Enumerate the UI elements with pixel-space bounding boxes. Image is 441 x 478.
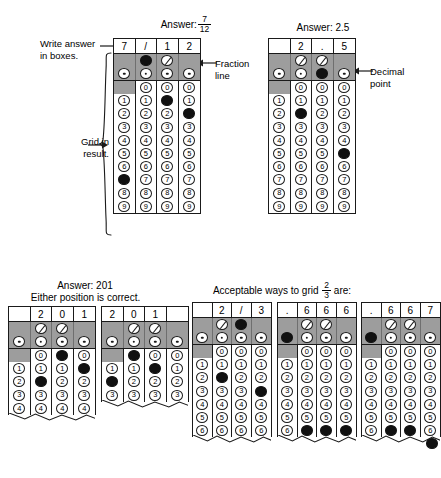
answer-cell[interactable]	[9, 307, 31, 322]
slash-cell[interactable]	[193, 318, 213, 331]
digit-bubble[interactable]: 3	[140, 122, 152, 133]
decimal-bubble[interactable]	[338, 68, 350, 79]
digit-cell[interactable]: 1	[401, 358, 421, 371]
digit-cell[interactable]: 0	[401, 345, 421, 358]
digit-cell[interactable]: 7	[157, 173, 179, 186]
decimal-bubble[interactable]	[235, 332, 247, 343]
decimal-bubble[interactable]	[301, 332, 313, 343]
digit-cell[interactable]: 2	[193, 371, 213, 384]
digit-cell[interactable]: 9	[312, 200, 334, 213]
digit-bubble[interactable]: 9	[140, 201, 152, 212]
digit-cell[interactable]: 2	[421, 371, 441, 384]
digit-bubble[interactable]: 4	[281, 399, 293, 410]
digit-bubble[interactable]: 4	[365, 399, 377, 410]
digit-bubble[interactable]: 2	[404, 372, 416, 383]
decimal-cell[interactable]	[382, 331, 402, 344]
digit-bubble[interactable]: 8	[161, 188, 173, 199]
digit-bubble[interactable]: 4	[183, 135, 195, 146]
digit-bubble[interactable]: 8	[183, 188, 195, 199]
digit-bubble[interactable]: 3	[78, 390, 90, 401]
slash-bubble[interactable]	[56, 323, 68, 334]
answer-cell[interactable]	[193, 303, 213, 318]
digit-cell[interactable]: 0	[252, 345, 272, 358]
digit-cell[interactable]: 3	[337, 385, 357, 398]
digit-cell[interactable]: 6	[136, 160, 158, 173]
digit-cell[interactable]: 5	[157, 147, 179, 160]
decimal-bubble[interactable]	[78, 336, 90, 347]
digit-cell[interactable]: 5	[401, 411, 421, 424]
digit-cell[interactable]: 1	[167, 362, 189, 375]
digit-cell[interactable]: 4	[317, 398, 337, 411]
digit-cell[interactable]: 9	[114, 200, 136, 213]
digit-cell[interactable]: 2	[334, 107, 356, 120]
decimal-bubble[interactable]	[196, 332, 208, 343]
digit-bubble-filled[interactable]	[128, 350, 140, 361]
digit-bubble[interactable]: 2	[161, 108, 173, 119]
digit-cell[interactable]: 1	[291, 94, 313, 107]
digit-cell[interactable]: 7	[136, 173, 158, 186]
digit-cell[interactable]: 9	[269, 200, 291, 213]
digit-cell[interactable]: 4	[362, 398, 382, 411]
digit-bubble[interactable]: 0	[338, 82, 350, 93]
digit-cell[interactable]: 4	[179, 134, 201, 147]
digit-cell[interactable]: 6	[157, 160, 179, 173]
answer-grid-666[interactable]: .666000111122223333444455556	[277, 302, 357, 437]
digit-bubble[interactable]: 6	[118, 161, 130, 172]
digit-bubble[interactable]: 4	[316, 135, 328, 146]
digit-cell[interactable]: 4	[114, 134, 136, 147]
decimal-cell[interactable]	[269, 67, 291, 80]
digit-cell[interactable]: 4	[252, 398, 272, 411]
digit-bubble[interactable]: 0	[78, 350, 90, 361]
digit-cell[interactable]: 4	[269, 134, 291, 147]
digit-bubble[interactable]: 2	[235, 372, 247, 383]
digit-bubble[interactable]: 8	[338, 188, 350, 199]
digit-cell[interactable]: 5	[337, 411, 357, 424]
answer-cell[interactable]: 6	[401, 303, 421, 318]
digit-cell[interactable]: 5	[269, 147, 291, 160]
digit-bubble[interactable]: 1	[281, 359, 293, 370]
digit-bubble[interactable]: 4	[216, 399, 228, 410]
digit-bubble[interactable]: 2	[424, 372, 436, 383]
digit-cell[interactable]: 9	[157, 200, 179, 213]
answer-grid-7-12[interactable]: 7/12000111222333344445555666677788889999	[113, 38, 201, 214]
answer-cell[interactable]: 2	[102, 307, 124, 322]
digit-cell[interactable]: 5	[317, 411, 337, 424]
digit-bubble[interactable]: 0	[35, 350, 47, 361]
digit-cell[interactable]: 6	[291, 160, 313, 173]
slash-bubble[interactable]	[295, 55, 307, 66]
digit-cell[interactable]: 2	[269, 107, 291, 120]
digit-cell[interactable]: 3	[382, 385, 402, 398]
decimal-bubble[interactable]	[56, 336, 68, 347]
digit-cell[interactable]: 1	[232, 358, 252, 371]
digit-bubble[interactable]: 6	[316, 161, 328, 172]
decimal-cell[interactable]	[401, 331, 421, 344]
digit-bubble[interactable]: 6	[183, 161, 195, 172]
digit-bubble[interactable]: 9	[338, 201, 350, 212]
slash-bubble[interactable]	[35, 323, 47, 334]
digit-cell[interactable]: 8	[312, 187, 334, 200]
digit-bubble[interactable]: 9	[118, 201, 130, 212]
digit-bubble[interactable]: 3	[35, 390, 47, 401]
digit-bubble[interactable]: 1	[320, 359, 332, 370]
answer-cell[interactable]: 2	[179, 39, 201, 54]
digit-bubble[interactable]: 1	[128, 363, 140, 374]
digit-cell[interactable]: 0	[157, 81, 179, 94]
digit-cell[interactable]: 1	[337, 358, 357, 371]
slash-bubble[interactable]	[161, 55, 173, 66]
digit-cell[interactable]: 1	[124, 362, 146, 375]
digit-cell[interactable]: 3	[74, 389, 96, 402]
slash-bubble[interactable]	[404, 319, 416, 330]
digit-bubble[interactable]: 3	[424, 386, 436, 397]
digit-cell[interactable]: 6	[269, 160, 291, 173]
digit-bubble[interactable]: 4	[295, 135, 307, 146]
decimal-cell[interactable]	[421, 331, 441, 344]
digit-cell[interactable]: 3	[179, 121, 201, 134]
digit-cell[interactable]: 5	[232, 411, 252, 424]
digit-bubble[interactable]: 2	[316, 108, 328, 119]
digit-cell[interactable]: 2	[145, 375, 167, 388]
digit-bubble[interactable]: 3	[273, 122, 285, 133]
digit-bubble[interactable]: 6	[161, 161, 173, 172]
digit-bubble[interactable]: 2	[320, 372, 332, 383]
digit-bubble[interactable]: 8	[316, 188, 328, 199]
digit-cell[interactable]: 0	[317, 345, 337, 358]
